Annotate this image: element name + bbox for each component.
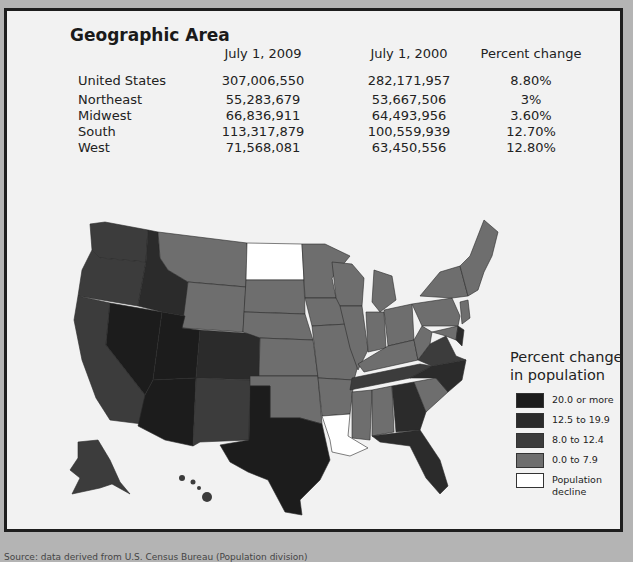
legend-swatch xyxy=(516,413,544,428)
legend-swatch xyxy=(516,473,544,488)
legend-swatch xyxy=(516,433,544,448)
state-nd xyxy=(246,243,304,280)
state-new-england xyxy=(460,220,498,296)
state-sd xyxy=(244,280,305,314)
state-hi xyxy=(197,486,201,490)
legend-label: 8.0 to 12.4 xyxy=(552,434,604,446)
state-hi xyxy=(179,475,185,481)
legend-title-line2: in population xyxy=(510,366,623,384)
state-co xyxy=(196,330,260,380)
state-hi xyxy=(191,480,196,485)
state-wy xyxy=(182,282,246,332)
state-ak xyxy=(70,440,130,494)
legend-label: 20.0 or more xyxy=(552,394,614,406)
state-ne xyxy=(243,312,313,340)
source-caption: Source: data derived from U.S. Census Bu… xyxy=(4,552,308,562)
state-ny xyxy=(420,266,468,298)
legend-label: 12.5 to 19.9 xyxy=(552,414,610,426)
state-al xyxy=(372,386,394,436)
state-ks xyxy=(259,338,318,376)
legend-swatch xyxy=(516,393,544,408)
state-nj xyxy=(460,300,470,324)
state-wa xyxy=(90,222,148,262)
state-pa xyxy=(412,298,460,326)
legend-title: Percent change in population xyxy=(510,348,623,384)
state-in xyxy=(366,312,386,352)
state-ar xyxy=(318,378,354,416)
state-fl xyxy=(372,430,448,494)
state-oh xyxy=(384,304,414,346)
legend-label: 0.0 to 7.9 xyxy=(552,454,598,466)
state-nm xyxy=(193,378,250,446)
legend-label: Population decline xyxy=(552,474,612,498)
state-wi xyxy=(332,262,364,306)
legend-title-line1: Percent change xyxy=(510,348,623,366)
state-ms xyxy=(352,390,372,440)
state-hi xyxy=(202,492,212,502)
state-mi xyxy=(372,270,396,312)
legend-swatch xyxy=(516,453,544,468)
